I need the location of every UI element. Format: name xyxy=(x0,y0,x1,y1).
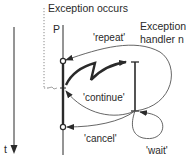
cancel-arrow: 'cancel' xyxy=(67,111,135,144)
cancel-label: 'cancel' xyxy=(84,133,117,144)
exception-occurs-marker: Exception occurs xyxy=(44,2,128,89)
exception-transfer-arrow xyxy=(66,62,126,85)
time-arrow-icon xyxy=(11,145,18,154)
continue-arrow: 'continue' xyxy=(66,91,135,115)
repeat-point-icon xyxy=(60,58,65,63)
exception-handling-diagram: t Exception occurs P Exception handler n… xyxy=(0,0,186,159)
process-p-timeline: P xyxy=(53,23,66,155)
wait-loop-arrow: 'wait' xyxy=(132,111,167,156)
exception-handler-n: Exception handler n xyxy=(131,20,186,111)
exception-occurs-label: Exception occurs xyxy=(48,2,128,14)
wait-label: 'wait' xyxy=(146,145,168,156)
time-label: t xyxy=(4,143,7,155)
handler-label-line2: handler n xyxy=(140,33,184,45)
squiggle-icon xyxy=(48,87,57,89)
time-axis: t xyxy=(4,27,18,155)
repeat-label: 'repeat' xyxy=(93,32,125,43)
cancel-point-icon xyxy=(60,124,65,129)
continue-label: 'continue' xyxy=(83,92,125,103)
process-label: P xyxy=(53,23,60,35)
handler-label-line1: Exception xyxy=(140,20,186,32)
